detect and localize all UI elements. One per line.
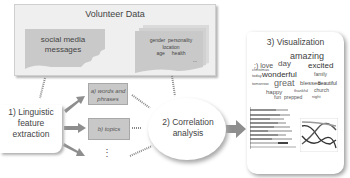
feature-more-ellipsis: ⋮ bbox=[100, 149, 114, 157]
feature-words-and-phrases: a) words and phrases bbox=[88, 83, 128, 105]
word-cloud: amazing :) love day excited wonderful fa… bbox=[252, 52, 340, 100]
visualization-title: 3) Visualization bbox=[247, 37, 344, 47]
correlation-analysis-label: 2) Correlation analysis bbox=[148, 117, 228, 139]
feature-topics: b) topics bbox=[88, 118, 130, 140]
line-chart-thumbnail bbox=[300, 118, 338, 152]
bar-chart-thumbnail bbox=[250, 107, 300, 152]
linguistic-feature-extraction-label: 1) Linguistic feature extraction bbox=[0, 107, 62, 140]
